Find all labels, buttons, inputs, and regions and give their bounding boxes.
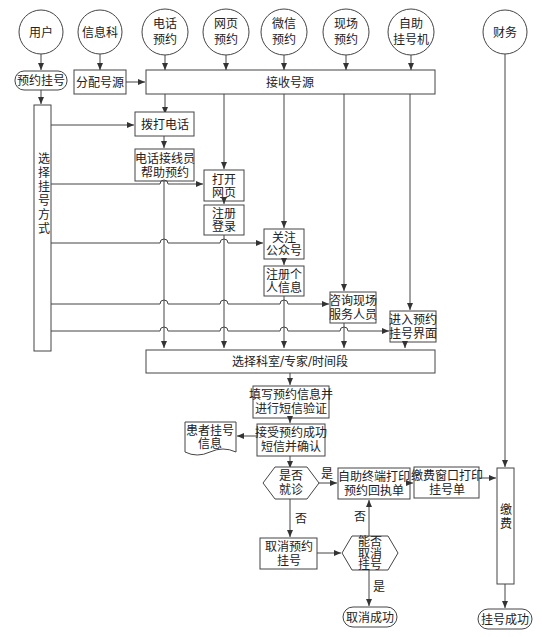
edge-label-no-2: 否	[354, 510, 366, 524]
svg-text:网页: 网页	[212, 186, 236, 200]
flowchart: 用户 信息科 电话 预约 网页 预约 微信 预约 现场 预约 自助 挂号机 财务	[0, 0, 542, 637]
svg-text:预约: 预约	[334, 32, 358, 47]
node-register-success: 挂号成功	[478, 609, 532, 629]
svg-text:公众号: 公众号	[266, 244, 302, 258]
svg-text:注册: 注册	[212, 206, 236, 221]
actor-finance: 财务	[483, 10, 527, 54]
node-cancel-booking: 取消预约 挂号	[260, 538, 317, 569]
svg-text:短信并确认: 短信并确认	[261, 440, 321, 454]
svg-text:挂号: 挂号	[277, 554, 301, 568]
svg-text:现场: 现场	[334, 17, 358, 31]
svg-text:注册个: 注册个	[266, 267, 302, 282]
svg-text:预约回执单: 预约回执单	[344, 483, 404, 498]
svg-text:预约: 预约	[214, 32, 238, 47]
svg-text:信息: 信息	[198, 436, 222, 451]
node-dial-phone: 拨打电话	[135, 112, 194, 136]
svg-text:取消成功: 取消成功	[346, 611, 394, 625]
node-allocate-source: 分配号源	[74, 70, 126, 94]
node-operator-help: 电话接线员 帮助预约	[135, 149, 195, 181]
edge-label-no: 否	[295, 512, 307, 526]
svg-text:进行短信验证: 进行短信验证	[255, 401, 327, 416]
svg-text:填写预约信息并: 填写预约信息并	[249, 387, 333, 402]
node-pay: 缴 费	[497, 468, 514, 584]
svg-text:接受预约成功: 接受预约成功	[255, 425, 327, 440]
node-follow-account: 关注 公众号	[264, 229, 304, 259]
actor-kiosk: 自助 挂号机	[388, 9, 434, 55]
svg-text:自助终端打印: 自助终端打印	[338, 469, 410, 484]
actor-user: 用户	[19, 10, 63, 54]
svg-text:选择科室/专家/时间段: 选择科室/专家/时间段	[232, 354, 348, 369]
svg-text:预约: 预约	[153, 32, 177, 47]
svg-text:关注: 关注	[272, 230, 296, 245]
svg-text:登录: 登录	[212, 219, 236, 234]
svg-text:缴费窗口打印: 缴费窗口打印	[411, 468, 483, 483]
svg-text:自助: 自助	[399, 17, 423, 31]
svg-text:信息科: 信息科	[82, 25, 118, 40]
svg-text:电话: 电话	[153, 17, 177, 31]
node-open-web: 打开 网页	[204, 170, 244, 201]
svg-text:进入预约: 进入预约	[389, 312, 437, 327]
decision-visit: 是否 就诊	[263, 467, 319, 499]
node-receive-sms: 接受预约成功 短信并确认	[255, 424, 327, 456]
svg-text:挂号界面: 挂号界面	[389, 327, 437, 341]
actor-info-dept: 信息科	[78, 10, 122, 54]
svg-text:网页: 网页	[214, 17, 238, 31]
svg-text:帮助预约: 帮助预约	[141, 165, 189, 180]
svg-text:挂号单: 挂号单	[429, 483, 465, 497]
svg-text:选择挂号方式: 选择挂号方式	[36, 152, 50, 236]
actor-web: 网页 预约	[203, 9, 249, 55]
node-select-dept: 选择科室/专家/时间段	[146, 350, 435, 373]
svg-text:咨询现场: 咨询现场	[329, 293, 377, 308]
node-receive-source: 接收号源	[146, 70, 435, 94]
node-fill-info: 填写预约信息并 进行短信验证	[249, 386, 333, 418]
svg-text:拨打电话: 拨打电话	[141, 118, 189, 132]
svg-text:挂号: 挂号	[358, 558, 382, 572]
decision-can-cancel: 能否 取消 挂号	[342, 535, 398, 572]
node-ask-staff: 咨询现场 服务人员	[329, 292, 377, 323]
node-cancel-success: 取消成功	[343, 607, 397, 627]
node-register-login: 注册 登录	[204, 205, 244, 235]
svg-text:用户: 用户	[29, 25, 53, 40]
svg-text:挂号机: 挂号机	[393, 33, 429, 47]
edge-label-yes: 是	[321, 467, 333, 481]
svg-text:人信息: 人信息	[266, 280, 302, 295]
svg-text:服务人员: 服务人员	[329, 307, 377, 322]
svg-text:患者挂号: 患者挂号	[186, 424, 234, 438]
node-window-print: 缴费窗口打印 挂号单	[411, 467, 483, 498]
svg-text:微信: 微信	[272, 17, 296, 31]
svg-text:预约挂号: 预约挂号	[17, 73, 65, 88]
svg-text:是否: 是否	[279, 469, 303, 483]
node-choose-method: 选择挂号方式	[34, 105, 51, 351]
node-kiosk-print: 自助终端打印 预约回执单	[338, 468, 410, 499]
actor-onsite: 现场 预约	[323, 9, 369, 55]
svg-text:财务: 财务	[493, 25, 517, 40]
svg-text:接收号源: 接收号源	[266, 75, 314, 90]
actor-phone: 电话 预约	[142, 9, 188, 55]
actor-wechat: 微信 预约	[261, 9, 307, 55]
svg-text:打开: 打开	[212, 173, 236, 187]
svg-text:分配号源: 分配号源	[76, 76, 124, 90]
svg-text:挂号成功: 挂号成功	[481, 613, 529, 627]
svg-text:缴: 缴	[500, 502, 512, 517]
node-enter-interface: 进入预约 挂号界面	[389, 311, 437, 342]
svg-text:就诊: 就诊	[279, 483, 303, 497]
svg-text:电话接线员: 电话接线员	[135, 151, 195, 166]
svg-text:预约: 预约	[272, 32, 296, 47]
node-register-info: 注册个 人信息	[264, 266, 304, 296]
node-patient-info: 患者挂号 信息	[185, 422, 236, 455]
edge-label-yes-2: 是	[373, 580, 385, 594]
node-book-register: 预约挂号	[15, 71, 67, 90]
svg-text:取消预约: 取消预约	[265, 539, 313, 554]
svg-text:费: 费	[500, 517, 512, 531]
